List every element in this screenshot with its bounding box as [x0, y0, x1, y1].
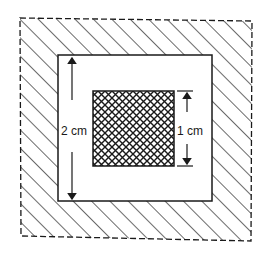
dimension-label-1cm: 1 cm	[176, 124, 204, 138]
inner-crosshatched-square	[93, 91, 174, 166]
dimension-label-2cm: 2 cm	[60, 124, 88, 138]
nested-squares-diagram	[0, 0, 269, 257]
